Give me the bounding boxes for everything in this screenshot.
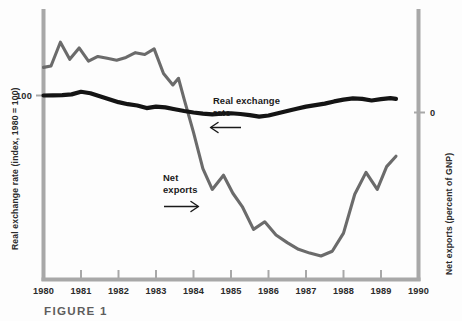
annotation-real-exchange-rate-line1: Real exchange [213,95,280,106]
axes-group [42,9,421,281]
x-label-1989: 1989 [370,286,391,296]
left-axis-title: Real exchange rate (index, 1980 = 100) [10,87,20,250]
x-label-1987: 1987 [295,286,316,296]
annotation-net-exports-line2: exports [163,184,198,195]
x-label-1990: 1990 [408,286,429,296]
x-tick-labels: 1980 1981 1982 1983 1984 1985 1986 1987 … [33,286,429,296]
x-label-1986: 1986 [258,286,279,296]
right-axis-title: Net exports (percent of GNP) [444,153,454,275]
right-tick-label-0: 0 [430,108,435,118]
chart-canvas: 1980 1981 1982 1983 1984 1985 1986 1987 … [0,0,462,321]
annotation-net-exports: Net exports [163,172,199,212]
left-arrow-icon [211,123,242,133]
x-label-1984: 1984 [183,286,205,296]
x-label-1981: 1981 [70,286,91,296]
annotation-real-exchange-rate-line2: rate [213,107,231,118]
x-label-1980: 1980 [33,286,54,296]
figure-container: 1980 1981 1982 1983 1984 1985 1986 1987 … [0,0,462,321]
figure-caption: FIGURE 1 [44,304,108,317]
x-label-1985: 1985 [220,286,241,296]
x-label-1983: 1983 [145,286,166,296]
right-arrow-icon [164,202,199,212]
x-label-1988: 1988 [333,286,354,296]
series-line-net-exports [44,42,397,256]
x-label-1982: 1982 [108,286,129,296]
annotation-net-exports-line1: Net [163,172,178,183]
